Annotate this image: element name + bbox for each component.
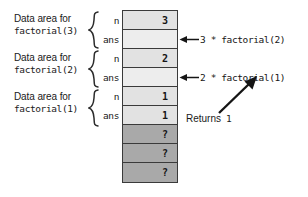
left-arrow-icon-annotation-2: [179, 72, 200, 83]
call-stack: 3 2 1 1 ? ? ?: [122, 10, 178, 183]
stack-cell: [123, 30, 177, 49]
slot-name-ans-frame-3: ans: [99, 30, 119, 49]
frame-label-bottom: factorial(1): [14, 103, 90, 115]
left-arrow-icon-annotation-1: [179, 34, 200, 45]
stack-cell-value: 1: [162, 87, 168, 106]
brace-icon-frame-3: [88, 11, 99, 49]
frame-label-factorial-1: Data area for factorial(1): [14, 91, 90, 115]
stack-cell-value: 1: [162, 106, 168, 125]
stack-cell: ?: [123, 125, 177, 144]
stack-cell-value: 2: [162, 49, 168, 68]
slot-name-n-frame-1: n: [99, 87, 119, 106]
returns-label: Returns1: [186, 111, 232, 124]
stack-cell: [123, 68, 177, 87]
frame-label-bottom: factorial(3): [14, 25, 90, 37]
slot-name-ans-frame-2: ans: [99, 68, 119, 87]
returns-value: 1: [226, 113, 232, 124]
brace-icon-frame-2: [88, 50, 99, 88]
frame-label-factorial-2: Data area for factorial(2): [14, 52, 90, 76]
diagram-canvas: Data area for factorial(3) Data area for…: [0, 0, 308, 197]
stack-cell-value: ?: [162, 125, 168, 144]
frame-label-top: Data area for: [14, 52, 90, 64]
diagonal-arrow-icon-returns: [216, 72, 260, 116]
slot-name-n-frame-3: n: [99, 11, 119, 30]
annotation-text-1: 3 * factorial(2): [200, 34, 285, 45]
stack-cell: 1: [123, 106, 177, 125]
slot-name-n-frame-2: n: [99, 49, 119, 68]
frame-label-factorial-3: Data area for factorial(3): [14, 13, 90, 37]
stack-cell: 1: [123, 87, 177, 106]
frame-label-top: Data area for: [14, 91, 90, 103]
stack-cell-value: 3: [162, 11, 168, 30]
stack-cell: 2: [123, 49, 177, 68]
brace-icon-frame-1: [88, 89, 99, 127]
stack-cell-value: ?: [162, 163, 168, 182]
stack-cell: 3: [123, 11, 177, 30]
returns-word: Returns: [186, 113, 221, 124]
frame-label-top: Data area for: [14, 13, 90, 25]
frame-label-bottom: factorial(2): [14, 64, 90, 76]
slot-name-ans-frame-1: ans: [99, 106, 119, 125]
stack-cell-value: ?: [162, 144, 168, 163]
stack-cell: ?: [123, 163, 177, 182]
stack-cell: ?: [123, 144, 177, 163]
